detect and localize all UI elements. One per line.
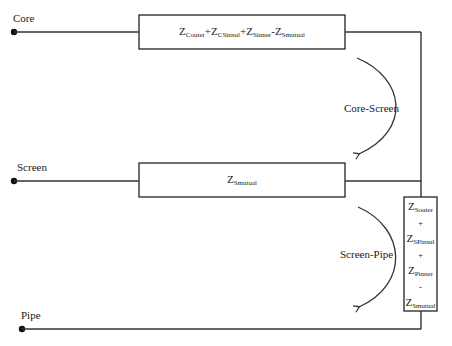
screen-label: Screen — [17, 161, 47, 173]
term-pinner: ZPinner — [408, 264, 433, 278]
term-smutual: ZSmutual — [405, 296, 435, 310]
term-smutual: -ZSmutual — [271, 25, 305, 37]
pipe-label: Pipe — [21, 309, 41, 321]
term-spinsul: ZSPinsul — [406, 232, 434, 246]
term-csinsul: +ZCSinsul — [205, 25, 240, 37]
core-screen-arrow-label: Core-Screen — [344, 102, 399, 114]
screen-impedance-formula: ZSmutual — [139, 173, 345, 187]
plus-operator: + — [418, 219, 423, 228]
minus-operator: - — [419, 283, 422, 292]
term-couter: ZCouter — [179, 25, 205, 37]
screen-pipe-impedance-formula: ZSouter + ZSPinsul + ZPinner - ZSmutual — [404, 200, 437, 310]
term-souter: ZSouter — [408, 200, 433, 214]
core-label: Core — [13, 12, 34, 24]
term-sinner: +ZSinner — [240, 25, 271, 37]
core-screen-impedance-formula: ZCouter+ZCSinsul+ZSinner-ZSmutual — [139, 25, 345, 39]
plus-operator: + — [418, 251, 423, 260]
screen-pipe-arrow-label: Screen-Pipe — [340, 248, 393, 260]
